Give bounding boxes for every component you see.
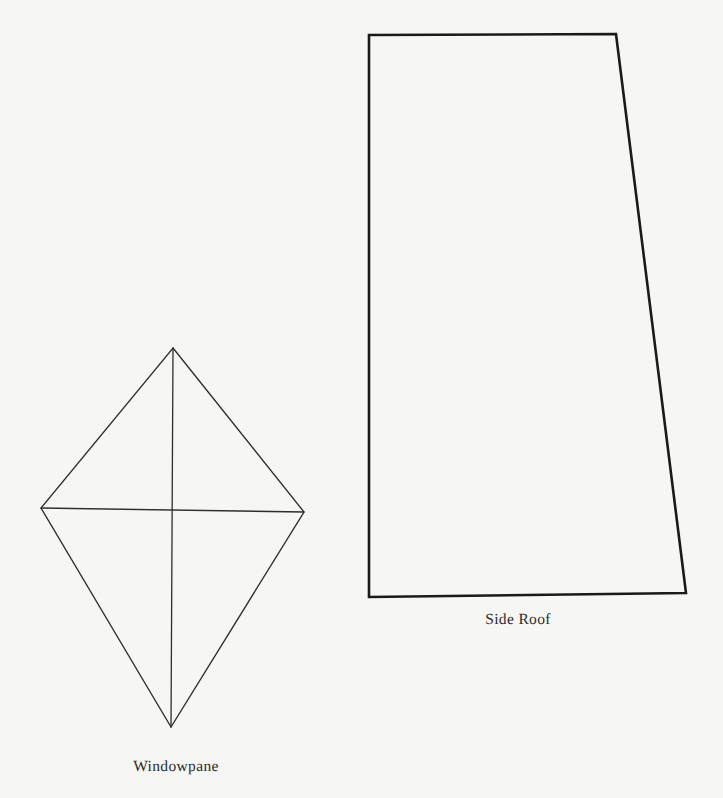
pattern-sheet: Windowpane Side Roof [0, 0, 723, 798]
windowpane-vertical-axis-line [171, 348, 173, 727]
pattern-drawing-canvas [0, 0, 723, 798]
shape-label-windowpane: Windowpane [133, 758, 219, 776]
shape-label-side-roof: Side Roof [485, 611, 551, 629]
shape-side-roof[interactable] [369, 34, 686, 597]
shape-windowpane[interactable] [41, 348, 304, 727]
side-roof-outline[interactable] [369, 34, 686, 597]
